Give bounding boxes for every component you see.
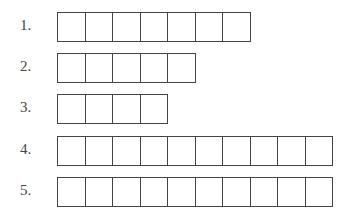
row-number: 1. bbox=[20, 17, 31, 34]
empty-box bbox=[86, 95, 114, 123]
box-strip bbox=[57, 177, 333, 207]
empty-box bbox=[58, 13, 86, 41]
empty-box bbox=[168, 178, 196, 206]
empty-box bbox=[113, 13, 141, 41]
empty-box bbox=[113, 137, 141, 165]
empty-box bbox=[196, 137, 224, 165]
empty-box bbox=[196, 13, 224, 41]
empty-box bbox=[58, 54, 86, 82]
empty-box bbox=[141, 13, 169, 41]
empty-box bbox=[223, 13, 251, 41]
empty-box bbox=[141, 178, 169, 206]
empty-box bbox=[306, 137, 334, 165]
empty-box bbox=[58, 137, 86, 165]
empty-box bbox=[141, 95, 169, 123]
empty-box bbox=[278, 178, 306, 206]
empty-box bbox=[86, 54, 114, 82]
empty-box bbox=[251, 178, 279, 206]
empty-box bbox=[196, 178, 224, 206]
row-number: 4. bbox=[20, 141, 31, 158]
empty-box bbox=[141, 54, 169, 82]
empty-box bbox=[223, 137, 251, 165]
empty-box bbox=[86, 178, 114, 206]
box-strip bbox=[57, 94, 168, 124]
row-number: 3. bbox=[20, 99, 31, 116]
empty-box bbox=[86, 13, 114, 41]
empty-box bbox=[278, 137, 306, 165]
empty-box bbox=[113, 95, 141, 123]
empty-box bbox=[306, 178, 334, 206]
empty-box bbox=[58, 178, 86, 206]
row-number: 5. bbox=[20, 182, 31, 199]
empty-box bbox=[86, 137, 114, 165]
empty-box bbox=[58, 95, 86, 123]
empty-box bbox=[168, 137, 196, 165]
empty-box bbox=[251, 137, 279, 165]
box-strip bbox=[57, 53, 196, 83]
empty-box bbox=[168, 54, 196, 82]
box-strip bbox=[57, 136, 333, 166]
empty-box bbox=[113, 54, 141, 82]
empty-box bbox=[223, 178, 251, 206]
row-number: 2. bbox=[20, 58, 31, 75]
box-strip bbox=[57, 12, 251, 42]
empty-box bbox=[113, 178, 141, 206]
empty-box bbox=[141, 137, 169, 165]
empty-box bbox=[168, 13, 196, 41]
